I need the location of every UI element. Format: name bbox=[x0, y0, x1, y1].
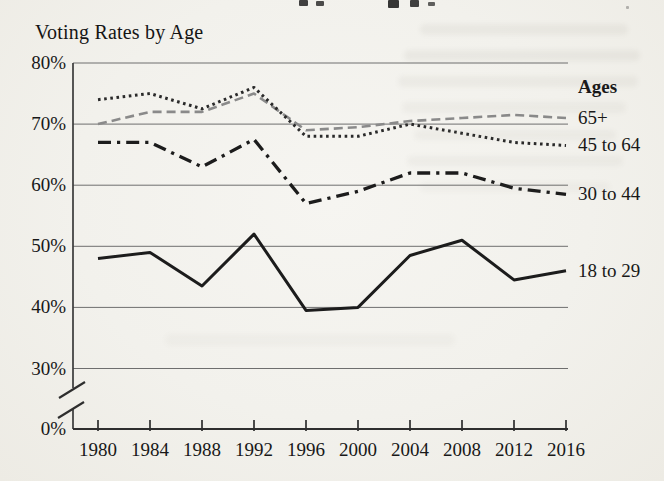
axis-break-slash-2 bbox=[58, 402, 84, 418]
legend-header: Ages bbox=[578, 76, 617, 97]
y-axis-label-50%: 50% bbox=[31, 235, 66, 256]
scanned-chart-page: Voting Rates by Age 80%70%60%50%40%30%0%… bbox=[0, 0, 664, 481]
x-axis-label-1988: 1988 bbox=[183, 439, 221, 460]
x-axis-label-2016: 2016 bbox=[547, 439, 585, 460]
y-axis-label-60%: 60% bbox=[31, 174, 66, 195]
legend-label-18-to-29: 18 to 29 bbox=[578, 260, 640, 281]
legend-label-45-to-64: 45 to 64 bbox=[578, 134, 641, 155]
y-axis-label-70%: 70% bbox=[31, 113, 66, 134]
x-axis-label-2000: 2000 bbox=[339, 439, 377, 460]
x-axis-label-1992: 1992 bbox=[235, 439, 273, 460]
y-axis-label-80%: 80% bbox=[31, 52, 66, 73]
x-axis-label-2012: 2012 bbox=[495, 439, 533, 460]
voting-rates-line-chart: 80%70%60%50%40%30%0%19801984198819921996… bbox=[0, 0, 664, 481]
x-axis-label-2004: 2004 bbox=[391, 439, 430, 460]
series-line-30-to-44 bbox=[98, 139, 566, 203]
series-line-18-to-29 bbox=[98, 234, 566, 310]
y-axis-label-0%: 0% bbox=[41, 418, 67, 439]
x-axis-label-2008: 2008 bbox=[443, 439, 481, 460]
series-line-65- bbox=[98, 94, 566, 131]
x-axis-label-1996: 1996 bbox=[287, 439, 325, 460]
legend-label-30-to-44: 30 to 44 bbox=[578, 183, 641, 204]
x-axis-label-1980: 1980 bbox=[79, 439, 117, 460]
axis-break-slash-1 bbox=[59, 382, 85, 398]
legend-label-65-: 65+ bbox=[578, 107, 608, 128]
y-axis-label-30%: 30% bbox=[31, 358, 66, 379]
x-axis-label-1984: 1984 bbox=[131, 439, 170, 460]
y-axis-label-40%: 40% bbox=[31, 296, 66, 317]
